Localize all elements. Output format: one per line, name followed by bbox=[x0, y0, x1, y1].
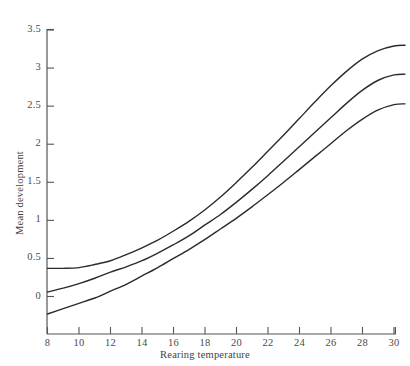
y-axis-title: Mean development bbox=[14, 151, 25, 235]
series-line-lower bbox=[48, 104, 406, 314]
plot-area bbox=[0, 0, 410, 366]
series-line-upper bbox=[48, 45, 406, 268]
y-tick-label: 0 bbox=[0, 290, 41, 301]
y-tick-label: 3.5 bbox=[0, 23, 41, 34]
data-series-group bbox=[48, 45, 406, 314]
y-tick-label: 2.5 bbox=[0, 99, 41, 110]
y-tick-label: 0.5 bbox=[0, 251, 41, 262]
x-axis-title: Rearing temperature bbox=[0, 349, 410, 360]
series-line-middle bbox=[48, 74, 406, 292]
x-tick-label: 30 bbox=[374, 337, 410, 348]
chart-figure: 00.511.522.533.5 81012141618202224262830… bbox=[0, 0, 410, 366]
axis-lines bbox=[47, 29, 396, 334]
y-tick-label: 2 bbox=[0, 137, 41, 148]
y-axis-ticks bbox=[47, 30, 54, 297]
x-axis-ticks bbox=[48, 327, 395, 334]
y-tick-label: 3 bbox=[0, 61, 41, 72]
